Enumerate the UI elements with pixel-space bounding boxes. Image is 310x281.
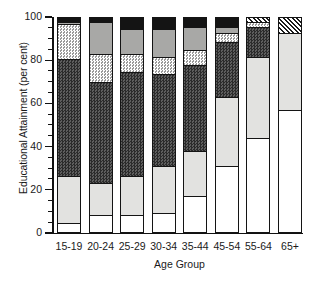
bar-55to64: [246, 17, 270, 233]
bar-segment-level-2: [247, 57, 269, 138]
bar-segment-level-4: [58, 24, 80, 58]
y-axis-tick-label: 100: [2, 10, 42, 22]
y-axis-minor-tick: [48, 92, 53, 93]
bar-segment-level-3: [247, 27, 269, 57]
y-axis-minor-tick: [48, 114, 53, 115]
stacked-bar-chart: Educational Attainment (per cent) 020406…: [0, 0, 310, 281]
bar-segment-level-4: [153, 57, 175, 74]
bar-segment-level-3: [216, 42, 238, 98]
bar-segment-level-3: [58, 59, 80, 177]
bar-segment-level-2: [90, 183, 112, 215]
bar-30to34: [152, 17, 176, 233]
bar-segment-level-3: [184, 65, 206, 151]
bar-25to29: [120, 17, 144, 233]
y-axis-minor-tick: [48, 168, 53, 169]
y-axis-tick-label: 60: [2, 96, 42, 108]
y-axis-major-tick: [45, 146, 52, 147]
bar-segment-level-1: [216, 166, 238, 232]
y-axis-minor-tick: [48, 124, 53, 125]
bar-segment-level-1: [184, 196, 206, 232]
y-axis-minor-tick: [48, 38, 53, 39]
bar-segment-level-2: [184, 151, 206, 196]
bar-segment-level-2: [216, 97, 238, 165]
y-axis-title: Educational Attainment (per cent): [17, 3, 29, 233]
bar-segment-level-6: [90, 18, 112, 22]
y-axis-major-tick: [45, 189, 52, 190]
y-axis-minor-tick: [48, 211, 53, 212]
y-axis-minor-tick: [48, 70, 53, 71]
y-axis-minor-tick: [48, 81, 53, 82]
bar-segment-level-1: [121, 215, 143, 232]
bar-segment-level-3: [153, 74, 175, 166]
y-axis-minor-tick: [48, 27, 53, 28]
bar-segment-level-5: [184, 27, 206, 51]
y-axis-major-tick: [45, 60, 52, 61]
bar-segment-level-5: [121, 29, 143, 55]
bar-segment-level-6: [121, 18, 143, 29]
bar-segment-level-6: [153, 18, 175, 29]
bar-segment-level-4: [247, 22, 269, 26]
bar-35to44: [183, 17, 207, 233]
bar-segment-level-2: [153, 166, 175, 213]
bar-segment-level-4: [184, 50, 206, 65]
bar-segment-level-2: [279, 33, 301, 110]
bar-15to19: [57, 17, 81, 233]
y-axis-major-tick: [45, 103, 52, 104]
bar-segment-level-3: [90, 82, 112, 183]
y-axis-minor-tick: [48, 157, 53, 158]
bar-segment-level-5: [58, 22, 80, 24]
bar-segment-level-2: [121, 176, 143, 215]
y-axis-tick-label: 0: [2, 226, 42, 238]
bar-45to54: [215, 17, 239, 233]
y-axis-tick-label: 20: [2, 183, 42, 195]
y-axis-tick-label: 40: [2, 140, 42, 152]
bar-segment-level-4: [121, 54, 143, 71]
bar-segment-level-6: [58, 18, 80, 22]
bar-segment-level-5: [216, 27, 238, 33]
y-axis-major-tick: [45, 16, 52, 17]
bar-segment-level-4: [90, 54, 112, 82]
bar-segment-level-2: [58, 176, 80, 223]
bar-65plus: [278, 17, 302, 233]
bar-segment-level-1: [58, 223, 80, 232]
y-axis-minor-tick: [48, 200, 53, 201]
bar-segment-level-4: [216, 33, 238, 42]
x-axis-line: [52, 233, 303, 235]
y-axis-major-tick: [45, 232, 52, 233]
bar-segment-level-3: [121, 72, 143, 177]
bar-segment-level-1: [279, 110, 301, 232]
y-axis-minor-tick: [48, 49, 53, 50]
bar-segment-level-1: [247, 138, 269, 232]
bar-segment-level-5: [153, 29, 175, 57]
y-axis-line: [52, 17, 54, 233]
x-axis-title: Age Group: [57, 258, 302, 270]
bar-segment-level-6: [216, 18, 238, 27]
y-axis-minor-tick: [48, 178, 53, 179]
bar-segment-level-5: [90, 22, 112, 54]
bar-20to24: [89, 17, 113, 233]
bar-segment-level-7: [247, 18, 269, 22]
bar-segment-level-6: [184, 18, 206, 27]
bar-segment-level-1: [90, 215, 112, 232]
y-axis-tick-label: 80: [2, 53, 42, 65]
y-axis-minor-tick: [48, 135, 53, 136]
x-axis-tick-label: 65+: [267, 240, 310, 252]
bar-segment-level-7: [279, 18, 301, 33]
plot-area: [57, 17, 302, 233]
y-axis-minor-tick: [48, 222, 53, 223]
bar-segment-level-1: [153, 213, 175, 232]
